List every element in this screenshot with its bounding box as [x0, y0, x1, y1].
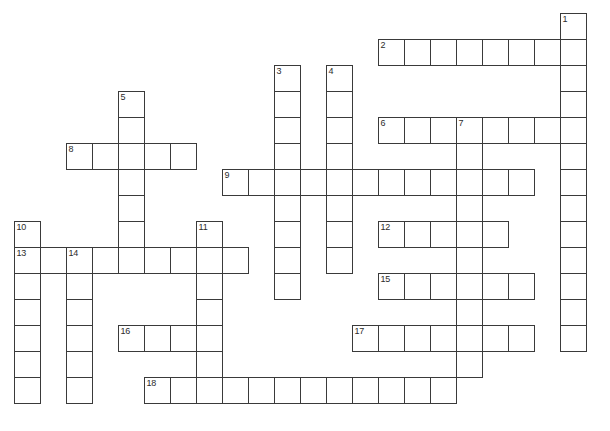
crossword-cell[interactable] — [378, 325, 405, 352]
crossword-cell[interactable] — [456, 325, 483, 352]
crossword-cell[interactable] — [430, 39, 457, 66]
crossword-cell[interactable]: 13 — [14, 247, 41, 274]
crossword-cell[interactable]: 7 — [456, 117, 483, 144]
crossword-cell[interactable] — [326, 377, 353, 404]
crossword-cell[interactable] — [560, 39, 587, 66]
crossword-cell[interactable] — [248, 169, 275, 196]
crossword-cell[interactable] — [534, 39, 561, 66]
crossword-cell[interactable] — [118, 143, 145, 170]
crossword-cell[interactable] — [430, 169, 457, 196]
crossword-cell[interactable] — [196, 377, 223, 404]
crossword-cell[interactable] — [456, 351, 483, 378]
crossword-cell[interactable] — [92, 247, 119, 274]
crossword-cell[interactable]: 8 — [66, 143, 93, 170]
crossword-cell[interactable]: 10 — [14, 221, 41, 248]
crossword-cell[interactable]: 2 — [378, 39, 405, 66]
crossword-cell[interactable] — [196, 273, 223, 300]
crossword-cell[interactable] — [118, 221, 145, 248]
crossword-cell[interactable] — [456, 39, 483, 66]
crossword-cell[interactable] — [456, 247, 483, 274]
crossword-cell[interactable] — [14, 351, 41, 378]
crossword-cell[interactable] — [404, 221, 431, 248]
crossword-cell[interactable] — [14, 325, 41, 352]
crossword-cell[interactable] — [40, 247, 67, 274]
crossword-cell[interactable]: 1 — [560, 13, 587, 40]
crossword-cell[interactable] — [378, 377, 405, 404]
crossword-cell[interactable] — [326, 221, 353, 248]
crossword-cell[interactable] — [352, 377, 379, 404]
crossword-cell[interactable] — [508, 39, 535, 66]
crossword-cell[interactable] — [560, 117, 587, 144]
crossword-cell[interactable] — [144, 325, 171, 352]
crossword-cell[interactable] — [560, 221, 587, 248]
crossword-cell[interactable]: 6 — [378, 117, 405, 144]
crossword-cell[interactable] — [560, 247, 587, 274]
crossword-cell[interactable] — [300, 169, 327, 196]
crossword-cell[interactable] — [14, 299, 41, 326]
crossword-cell[interactable] — [508, 325, 535, 352]
crossword-cell[interactable]: 5 — [118, 91, 145, 118]
crossword-cell[interactable]: 4 — [326, 65, 353, 92]
crossword-cell[interactable] — [482, 169, 509, 196]
crossword-cell[interactable] — [248, 377, 275, 404]
crossword-cell[interactable] — [482, 39, 509, 66]
crossword-cell[interactable] — [508, 273, 535, 300]
crossword-cell[interactable] — [274, 377, 301, 404]
crossword-cell[interactable] — [482, 273, 509, 300]
crossword-cell[interactable] — [430, 325, 457, 352]
crossword-cell[interactable] — [66, 273, 93, 300]
crossword-cell[interactable] — [560, 273, 587, 300]
crossword-cell[interactable]: 15 — [378, 273, 405, 300]
crossword-cell[interactable] — [456, 299, 483, 326]
crossword-cell[interactable] — [92, 143, 119, 170]
crossword-cell[interactable] — [560, 195, 587, 222]
crossword-cell[interactable] — [144, 143, 171, 170]
crossword-cell[interactable] — [118, 117, 145, 144]
crossword-cell[interactable] — [430, 117, 457, 144]
crossword-cell[interactable] — [66, 377, 93, 404]
crossword-cell[interactable] — [300, 377, 327, 404]
crossword-cell[interactable] — [222, 377, 249, 404]
crossword-cell[interactable] — [508, 169, 535, 196]
crossword-cell[interactable] — [456, 169, 483, 196]
crossword-cell[interactable]: 18 — [144, 377, 171, 404]
crossword-cell[interactable] — [118, 247, 145, 274]
crossword-cell[interactable] — [326, 169, 353, 196]
crossword-cell[interactable] — [456, 221, 483, 248]
crossword-cell[interactable] — [430, 221, 457, 248]
crossword-cell[interactable] — [170, 247, 197, 274]
crossword-cell[interactable] — [456, 195, 483, 222]
crossword-cell[interactable] — [274, 169, 301, 196]
crossword-cell[interactable] — [66, 351, 93, 378]
crossword-cell[interactable]: 3 — [274, 65, 301, 92]
crossword-cell[interactable]: 14 — [66, 247, 93, 274]
crossword-cell[interactable] — [430, 273, 457, 300]
crossword-cell[interactable] — [118, 195, 145, 222]
crossword-cell[interactable] — [326, 195, 353, 222]
crossword-cell[interactable] — [404, 117, 431, 144]
crossword-cell[interactable] — [274, 221, 301, 248]
crossword-cell[interactable] — [560, 91, 587, 118]
crossword-cell[interactable] — [222, 247, 249, 274]
crossword-cell[interactable] — [404, 377, 431, 404]
crossword-cell[interactable] — [482, 325, 509, 352]
crossword-cell[interactable]: 11 — [196, 221, 223, 248]
crossword-cell[interactable]: 12 — [378, 221, 405, 248]
crossword-cell[interactable] — [508, 117, 535, 144]
crossword-cell[interactable] — [326, 117, 353, 144]
crossword-cell[interactable] — [326, 247, 353, 274]
crossword-cell[interactable] — [404, 325, 431, 352]
crossword-cell[interactable] — [170, 377, 197, 404]
crossword-cell[interactable] — [274, 91, 301, 118]
crossword-cell[interactable] — [404, 169, 431, 196]
crossword-cell[interactable] — [196, 299, 223, 326]
crossword-cell[interactable] — [560, 65, 587, 92]
crossword-cell[interactable] — [14, 273, 41, 300]
crossword-cell[interactable] — [456, 143, 483, 170]
crossword-cell[interactable] — [482, 221, 509, 248]
crossword-cell[interactable] — [274, 273, 301, 300]
crossword-cell[interactable] — [170, 143, 197, 170]
crossword-cell[interactable] — [534, 117, 561, 144]
crossword-cell[interactable] — [560, 299, 587, 326]
crossword-cell[interactable] — [352, 169, 379, 196]
